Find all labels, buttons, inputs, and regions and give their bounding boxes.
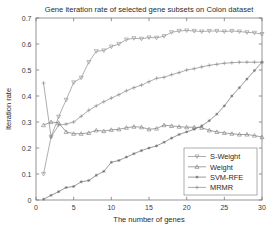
marker-plus bbox=[237, 60, 241, 64]
marker-plus bbox=[155, 76, 159, 80]
marker-plus bbox=[42, 81, 46, 85]
legend-label: Weight bbox=[210, 163, 233, 172]
marker-plus bbox=[139, 83, 143, 87]
marker-plus bbox=[177, 71, 181, 75]
x-tick-label: 25 bbox=[220, 204, 228, 211]
marker-plus bbox=[109, 96, 113, 100]
series-weight bbox=[42, 120, 264, 139]
marker-star bbox=[57, 190, 60, 193]
marker-plus bbox=[245, 60, 249, 64]
legend: S-WeightWeightSVM-RFEMRMR bbox=[184, 148, 257, 195]
y-tick-label: 0.4 bbox=[22, 93, 32, 100]
y-tick-label: 0.5 bbox=[22, 67, 32, 74]
marker-star bbox=[230, 95, 233, 98]
marker-star bbox=[50, 194, 53, 197]
y-tick-label: 0 bbox=[28, 197, 32, 204]
series-mrmr bbox=[42, 60, 264, 139]
series-line bbox=[44, 122, 262, 137]
marker-star bbox=[148, 147, 151, 150]
y-tick-label: 0.2 bbox=[22, 145, 32, 152]
marker-plus bbox=[102, 100, 106, 104]
marker-plus bbox=[185, 68, 189, 72]
marker-plus bbox=[147, 80, 151, 84]
marker-plus bbox=[64, 122, 68, 126]
x-tick-label: 0 bbox=[34, 204, 38, 211]
x-tick-label: 15 bbox=[145, 204, 153, 211]
marker-plus bbox=[162, 75, 166, 79]
y-tick-label: 0.7 bbox=[22, 15, 32, 22]
marker-star bbox=[42, 198, 45, 201]
y-tick-label: 0.6 bbox=[22, 41, 32, 48]
legend-label: SVM-RFE bbox=[210, 173, 243, 182]
legend-label: MRMR bbox=[210, 183, 233, 192]
marker-star bbox=[125, 156, 128, 159]
marker-star bbox=[155, 144, 158, 147]
marker-star bbox=[170, 137, 173, 140]
x-tick-label: 20 bbox=[183, 204, 191, 211]
legend-label: S-Weight bbox=[210, 152, 240, 161]
x-axis-label: The number of genes bbox=[113, 215, 185, 224]
y-axis-label: Iteration rate bbox=[4, 88, 13, 130]
marker-plus bbox=[230, 61, 234, 65]
marker-plus bbox=[132, 86, 136, 90]
marker-plus bbox=[215, 62, 219, 66]
marker-plus bbox=[49, 135, 53, 139]
marker-star bbox=[110, 161, 113, 164]
y-tick-label: 0.1 bbox=[22, 171, 32, 178]
marker-plus bbox=[124, 89, 128, 93]
marker-plus bbox=[192, 67, 196, 71]
marker-star bbox=[163, 141, 166, 144]
marker-star bbox=[200, 124, 203, 127]
chart-canvas: 05101520253000.10.20.30.40.50.60.7Gene i… bbox=[0, 0, 280, 234]
marker-plus bbox=[94, 104, 98, 108]
marker-star bbox=[140, 149, 143, 152]
marker-plus bbox=[252, 60, 256, 64]
marker-plus bbox=[170, 73, 174, 77]
y-tick-label: 0.3 bbox=[22, 119, 32, 126]
marker-star bbox=[132, 152, 135, 155]
chart-figure: 05101520253000.10.20.30.40.50.60.7Gene i… bbox=[0, 0, 280, 234]
marker-plus bbox=[200, 65, 204, 69]
marker-star bbox=[95, 174, 98, 177]
marker-star bbox=[178, 133, 181, 136]
x-tick-label: 5 bbox=[72, 204, 76, 211]
marker-star bbox=[87, 179, 90, 182]
marker-star bbox=[185, 130, 188, 133]
marker-star bbox=[117, 159, 120, 162]
marker-plus bbox=[222, 61, 226, 65]
x-tick-label: 10 bbox=[107, 204, 115, 211]
chart-title: Gene iteration rate of selected gene sub… bbox=[45, 5, 254, 14]
marker-star bbox=[72, 185, 75, 188]
marker-star bbox=[193, 128, 196, 131]
marker-plus bbox=[117, 93, 121, 97]
marker-plus bbox=[207, 63, 211, 67]
x-tick-label: 30 bbox=[258, 204, 266, 211]
marker-star bbox=[65, 186, 68, 189]
